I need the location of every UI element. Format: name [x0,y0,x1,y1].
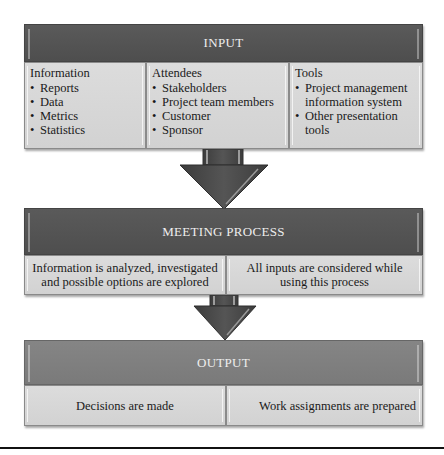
meeting-process-header: MEETING PROCESS [24,208,423,255]
input-column-information: Information Reports Data Metrics Statist… [24,62,146,149]
output-box: OUTPUT Decisions are made Work assignmen… [24,340,423,426]
bullet-list: Reports Data Metrics Statistics [25,81,145,137]
bottom-rule [0,447,444,449]
output-header-label: OUTPUT [197,355,250,371]
list-item: Customer [152,109,288,123]
input-box: INPUT Information Reports Data Metrics S… [24,24,423,149]
output-header: OUTPUT [24,340,423,385]
input-header-label: INPUT [204,35,244,51]
cell-text: Work assignments are prepared [259,399,416,413]
input-header: INPUT [24,24,423,62]
meeting-process-cell: Information is analyzed, investigated an… [24,255,226,295]
list-item: Project management information system [295,81,418,109]
list-item: Sponsor [152,123,288,137]
bullet-list: Stakeholders Project team members Custom… [147,81,288,137]
column-title: Tools [290,63,422,80]
list-item: Project team members [152,95,288,109]
list-item: Statistics [30,123,145,137]
list-item: Data [30,95,145,109]
list-item: Reports [30,81,145,95]
list-item: Other presentation tools [295,109,418,137]
output-cell: Work assignments are prepared [226,385,423,426]
column-title: Information [25,63,145,80]
meeting-process-header-label: MEETING PROCESS [162,224,285,240]
meeting-process-box: MEETING PROCESS Information is analyzed,… [24,208,423,295]
down-arrow-icon [192,295,258,342]
cell-text: Information is analyzed, investigated an… [31,261,219,289]
cell-text: Decisions are made [76,399,174,413]
cell-text: All inputs are considered while using th… [237,261,412,289]
input-column-tools: Tools Project management information sys… [289,62,423,149]
down-arrow-icon [178,149,270,211]
meeting-process-cell: All inputs are considered while using th… [226,255,423,295]
list-item: Stakeholders [152,81,288,95]
output-cell: Decisions are made [24,385,226,426]
list-item: Metrics [30,109,145,123]
column-title: Attendees [147,63,288,80]
input-column-attendees: Attendees Stakeholders Project team memb… [146,62,289,149]
bullet-list: Project management information system Ot… [290,81,422,137]
